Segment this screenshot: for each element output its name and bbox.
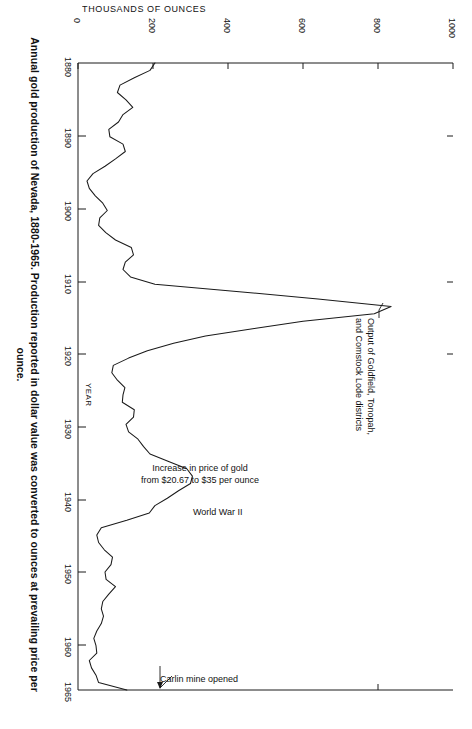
value-tick-0: 0 xyxy=(72,18,82,23)
annotation-goldfield: Output of Goldfield, Tonopah, and Comsto… xyxy=(353,318,376,435)
year-axis-title: YEAR xyxy=(84,383,93,406)
year-tick-1950: 1950 xyxy=(63,564,73,584)
annotation-goldfield-line-1: Output of Goldfield, Tonopah, xyxy=(365,318,377,435)
year-tick-1890: 1890 xyxy=(63,128,73,148)
year-tick-1880: 1880 xyxy=(63,57,73,77)
year-tick-1960: 1960 xyxy=(63,637,73,657)
value-tick-800: 800 xyxy=(372,18,382,33)
year-tick-1900: 1900 xyxy=(63,201,73,221)
annotation-goldfield-line-2: and Comstock Lode districts xyxy=(353,318,365,435)
year-axis xyxy=(78,63,453,690)
annotation-gold-price-line-2: from $20.67 to $35 per ounce xyxy=(141,474,259,486)
production-curve xyxy=(87,63,391,690)
value-tick-1000: 1000 xyxy=(447,18,457,38)
year-tick-1920: 1920 xyxy=(63,346,73,366)
annotation-gold-price: Increase in price of gold from $20.67 to… xyxy=(141,462,259,486)
value-axis-title-wrapper: THOUSANDS OF OUNCES xyxy=(82,4,206,14)
value-axis-title: THOUSANDS OF OUNCES xyxy=(82,4,206,14)
figure-container: Annual gold production of Nevada, 1880-1… xyxy=(0,0,472,729)
annotation-carlin-mine: Carlin mine opened xyxy=(160,673,238,685)
annotation-world-war-ii: World War II xyxy=(193,506,243,518)
year-tick-1910: 1910 xyxy=(63,274,73,294)
year-tick-1930: 1930 xyxy=(63,419,73,439)
value-tick-200: 200 xyxy=(147,18,157,33)
value-axis xyxy=(78,63,453,354)
value-tick-400: 400 xyxy=(222,18,232,33)
value-tick-600: 600 xyxy=(297,18,307,33)
year-tick-1940: 1940 xyxy=(63,492,73,512)
year-tick-1965: 1965 xyxy=(63,682,73,702)
annotation-gold-price-line-1: Increase in price of gold xyxy=(141,462,259,474)
